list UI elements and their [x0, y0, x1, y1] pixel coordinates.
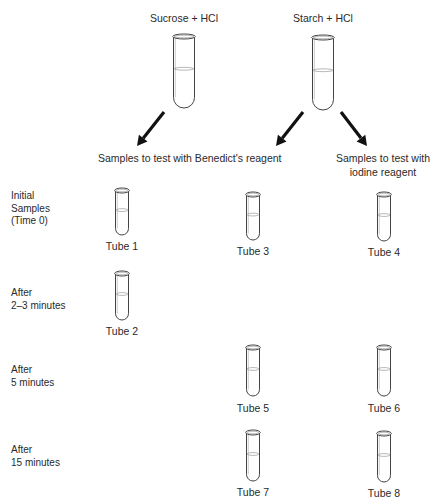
source-test-tube-icon [312, 35, 335, 110]
benedict-header: Samples to test with Benedict's reagent [98, 152, 282, 165]
test-tube-icon [377, 192, 392, 241]
source-test-tube-icon [173, 34, 196, 108]
tube-label-4: Tube 4 [368, 246, 400, 259]
tube-label-2: Tube 2 [106, 325, 138, 338]
source-label-starch: Starch + HCl [293, 12, 353, 25]
arrow-icon [341, 112, 367, 146]
arrow-icon [276, 112, 303, 146]
test-tube-icon [246, 430, 261, 481]
row-label-15-min: After 15 minutes [11, 444, 60, 469]
tube-label-7: Tube 7 [237, 486, 269, 499]
tube-label-1: Tube 1 [106, 240, 138, 253]
test-tube-icon [377, 431, 392, 482]
test-tube-icon [115, 188, 130, 235]
test-tube-icon [377, 345, 392, 396]
row-label-time-0: Initial Samples (Time 0) [11, 190, 50, 228]
arrow-icon [137, 112, 164, 146]
tube-label-8: Tube 8 [368, 487, 400, 500]
test-tube-icon [246, 345, 261, 396]
test-tube-icon [115, 271, 130, 320]
tube-label-6: Tube 6 [368, 402, 400, 415]
tube-label-5: Tube 5 [237, 402, 269, 415]
tube-label-3: Tube 3 [237, 245, 269, 258]
test-tube-icon [246, 192, 261, 240]
iodine-header-line1: Samples to test with [336, 152, 430, 165]
row-label-2-3-min: After 2–3 minutes [11, 287, 65, 312]
source-label-sucrose: Sucrose + HCl [150, 12, 218, 25]
iodine-header-line2: iodine reagent [350, 166, 417, 179]
row-label-5-min: After 5 minutes [11, 364, 54, 389]
